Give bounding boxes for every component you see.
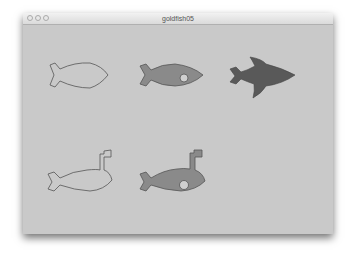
fish-outline-icon: [50, 63, 108, 88]
fish-dark-fins-icon: [230, 57, 295, 98]
fish-outline-periscope-icon: [48, 150, 112, 191]
app-window: goldfish05: [23, 13, 333, 234]
sketch-canvas: [23, 25, 333, 234]
fish-filled-eye-periscope-icon: [140, 150, 205, 191]
title-bar[interactable]: goldfish05: [23, 13, 333, 25]
window-title: goldfish05: [23, 13, 333, 24]
fish-filled-eye-icon: [140, 64, 203, 86]
